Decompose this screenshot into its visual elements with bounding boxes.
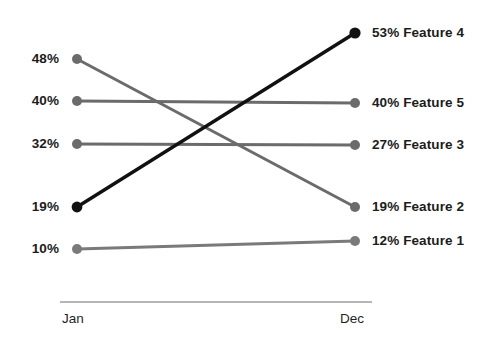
slope-chart-plot-area bbox=[0, 0, 502, 344]
slope-label-right-feature-1: 12% Feature 1 bbox=[372, 234, 464, 248]
slope-marker-left-feature-4 bbox=[72, 202, 83, 213]
slope-line-feature-1 bbox=[77, 241, 355, 249]
slope-marker-right-feature-2 bbox=[350, 202, 360, 212]
slope-label-right-feature-2: 19% Feature 2 bbox=[372, 200, 464, 214]
slope-label-left-feature-3: 32% bbox=[32, 137, 59, 151]
slope-line-feature-5 bbox=[77, 101, 355, 103]
slope-marker-left-feature-1 bbox=[72, 244, 82, 254]
slope-marker-left-feature-3 bbox=[72, 139, 82, 149]
slope-label-right-feature-4: 53% Feature 4 bbox=[372, 26, 464, 40]
slope-marker-right-feature-4 bbox=[349, 27, 360, 38]
slope-line-feature-3 bbox=[77, 144, 355, 145]
slope-label-left-feature-2: 48% bbox=[32, 52, 59, 66]
slope-label-right-feature-5: 40% Feature 5 bbox=[372, 96, 464, 110]
slope-label-right-feature-3: 27% Feature 3 bbox=[372, 138, 464, 152]
slope-chart: 48% 40% 32% 19% 10% 53% Feature 4 40% Fe… bbox=[0, 0, 502, 344]
x-axis-tick-jan: Jan bbox=[62, 312, 84, 326]
slope-marker-right-feature-1 bbox=[350, 236, 360, 246]
slope-label-left-feature-5: 40% bbox=[32, 94, 59, 108]
slope-marker-right-feature-5 bbox=[350, 98, 360, 108]
slope-marker-right-feature-3 bbox=[350, 140, 360, 150]
slope-label-left-feature-1: 10% bbox=[32, 242, 59, 256]
slope-line-feature-4 bbox=[77, 33, 355, 207]
slope-marker-left-feature-5 bbox=[72, 96, 82, 106]
x-axis-tick-dec: Dec bbox=[340, 312, 364, 326]
slope-label-left-feature-4: 19% bbox=[32, 200, 59, 214]
slope-marker-left-feature-2 bbox=[72, 54, 82, 64]
slope-line-feature-2 bbox=[77, 59, 355, 207]
